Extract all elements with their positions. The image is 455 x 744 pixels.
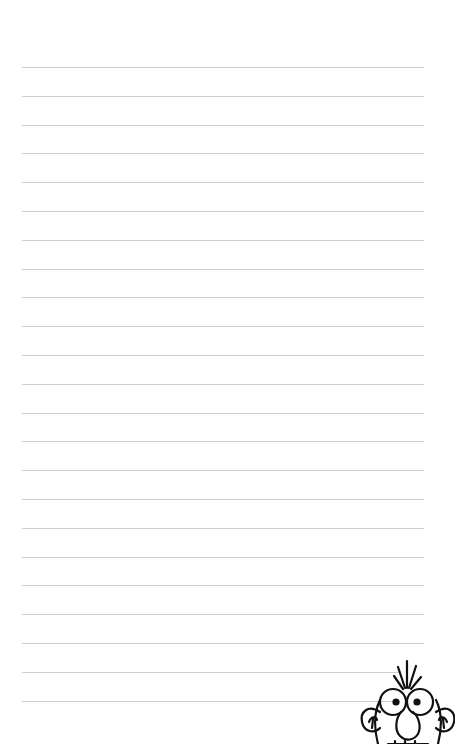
ruled-line xyxy=(22,557,424,558)
ruled-line xyxy=(22,499,424,500)
ruled-line xyxy=(22,355,424,356)
lined-paper-page xyxy=(0,0,455,744)
ruled-line xyxy=(22,67,424,68)
ruled-line xyxy=(22,384,424,385)
ruled-line xyxy=(22,701,400,702)
cartoon-face-icon xyxy=(355,655,455,744)
ruled-line xyxy=(22,269,424,270)
ruled-line xyxy=(22,614,424,615)
ruled-line xyxy=(22,326,424,327)
ruled-line xyxy=(22,585,424,586)
ruled-line xyxy=(22,413,424,414)
ruled-line xyxy=(22,211,424,212)
ruled-line xyxy=(22,441,424,442)
ruled-line xyxy=(22,96,424,97)
ruled-line xyxy=(22,153,424,154)
ruled-line xyxy=(22,528,424,529)
ruled-line xyxy=(22,297,424,298)
ruled-line xyxy=(22,182,424,183)
ruled-line xyxy=(22,672,400,673)
ruled-line xyxy=(22,643,424,644)
ruled-line xyxy=(22,470,424,471)
ruled-line xyxy=(22,125,424,126)
ruled-line xyxy=(22,240,424,241)
